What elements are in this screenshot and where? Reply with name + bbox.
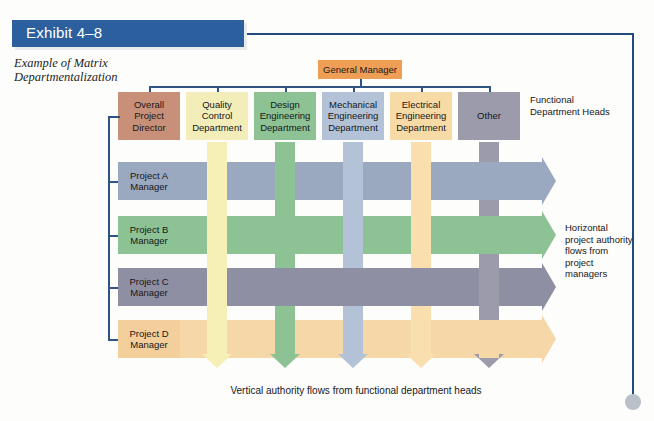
weave-over-r1-c5 (479, 216, 499, 254)
department-bus-connector (149, 86, 489, 88)
department-head-box-2: Design Engineering Department (254, 92, 316, 140)
project-stub-2 (108, 287, 118, 289)
weave-over-r1-c2 (275, 216, 295, 254)
project-bracket-top-stub (108, 116, 120, 118)
project-bracket-spine (108, 116, 110, 339)
department-head-box-5: Other (458, 92, 520, 140)
department-head-box-4: Electrical Engineering Department (390, 92, 452, 140)
weave-over-r2-c4 (411, 268, 431, 306)
weave-over-r2-c2 (275, 268, 295, 306)
project-stub-0 (108, 181, 118, 183)
project-stub-3 (108, 339, 118, 341)
project-manager-box-2: Project C Manager (118, 268, 180, 306)
vertical-authority-caption: Vertical authority flows from functional… (186, 385, 526, 396)
weave-over-r0-c5 (479, 162, 499, 200)
weave-over-r3-c5 (479, 320, 499, 358)
project-manager-box-3: Project D Manager (118, 320, 180, 358)
department-head-box-1: Quality Control Department (186, 92, 248, 140)
general-manager-box: General Manager (318, 60, 402, 79)
functional-heads-caption: Functional Department Heads (530, 94, 616, 117)
project-stub-1 (108, 235, 118, 237)
weave-over-r2-c3 (343, 268, 363, 306)
department-head-box-0: Overall Project Director (118, 92, 180, 140)
project-manager-box-1: Project B Manager (118, 216, 180, 254)
exhibit-page: Exhibit 4–8 Example of Matrix Department… (0, 0, 654, 421)
gm-stem-connector (360, 79, 362, 86)
horizontal-authority-caption: Horizontal project authority flows from … (565, 222, 635, 280)
project-manager-box-0: Project A Manager (118, 162, 180, 200)
department-head-box-3: Mechanical Engineering Department (322, 92, 384, 140)
